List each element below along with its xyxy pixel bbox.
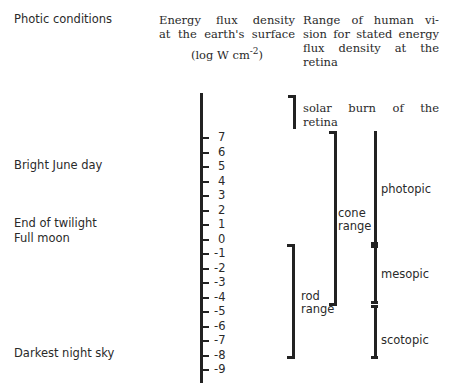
axis-tick-label: 6	[218, 146, 238, 158]
condition-bright-june-day: Bright June day	[14, 159, 102, 172]
mesopic-cap-top	[371, 245, 378, 248]
scotopic-cap-bottom	[371, 356, 378, 359]
mesopic-bracket	[374, 245, 377, 303]
axis-tick-label: -4	[214, 291, 234, 303]
condition-darkest-night-sky: Darkest night sky	[14, 347, 114, 360]
photopic-label: photopic	[381, 183, 431, 196]
axis-tick	[203, 282, 209, 284]
scotopic-bracket	[374, 305, 377, 359]
axis-tick-label: 7	[218, 131, 238, 143]
axis-tick	[203, 195, 209, 197]
axis-tick-label: -7	[214, 334, 234, 346]
scotopic-cap-top	[371, 305, 378, 308]
cone-range-bracket	[334, 131, 337, 306]
axis-tick	[203, 369, 209, 371]
mesopic-label: mesopic	[381, 268, 429, 281]
axis-tick-label: -9	[214, 363, 234, 375]
axis-tick-label: -1	[214, 247, 234, 259]
header-energy-line2: at the earth's surface	[159, 27, 295, 41]
rod-range-bracket	[292, 244, 295, 359]
axis-tick-label: 1	[218, 218, 238, 230]
axis-tick-label: -8	[214, 349, 234, 361]
axis-tick-label: 4	[218, 175, 238, 187]
axis-tick-label: 3	[218, 189, 238, 201]
header-range-line1: Range of human vi-	[303, 13, 439, 27]
axis-tick-label: -6	[214, 320, 234, 332]
header-range-line4: retina	[303, 55, 439, 69]
solar-burn-bracket	[293, 95, 296, 129]
solar-burn-bracket-cap	[288, 95, 296, 98]
cone-range-cap-top	[329, 131, 337, 134]
axis-tick	[203, 181, 209, 183]
axis-tick	[203, 326, 209, 328]
header-energy-line1: Energy flux density	[159, 13, 295, 27]
header-photic-conditions: Photic conditions	[14, 13, 112, 26]
axis-tick	[203, 340, 209, 342]
axis-tick	[203, 224, 209, 226]
axis-tick	[203, 268, 209, 270]
scotopic-label: scotopic	[381, 334, 429, 347]
condition-end-of-twilight: End of twilight	[14, 217, 97, 230]
rod-range-label: rod range	[301, 290, 334, 316]
axis-tick	[203, 253, 209, 255]
rod-range-cap-bottom	[287, 356, 295, 359]
header-energy-unit: (log W cm-2)	[159, 44, 295, 62]
axis-tick	[203, 137, 209, 139]
axis-tick	[203, 210, 209, 212]
axis-tick	[203, 166, 209, 168]
photopic-bracket	[374, 131, 377, 244]
header-vision-range: Range of human vi- sion for stated energ…	[303, 13, 439, 69]
axis-tick	[203, 311, 209, 313]
header-range-line3: flux density at the	[303, 41, 439, 55]
condition-full-moon: Full moon	[14, 232, 70, 245]
axis-tick-label: -2	[214, 262, 234, 274]
axis-tick-label: 5	[218, 160, 238, 172]
axis-tick	[203, 355, 209, 357]
cone-range-label: cone range	[338, 207, 371, 233]
axis-tick-label: -3	[214, 276, 234, 288]
header-range-line2: sion for stated energy	[303, 27, 439, 41]
header-energy-flux: Energy flux density at the earth's surfa…	[159, 13, 295, 62]
axis-tick	[203, 297, 209, 299]
axis-tick-label: 0	[218, 233, 238, 245]
axis-tick-label: -5	[214, 305, 234, 317]
axis-tick	[203, 239, 209, 241]
axis-tick-label: 2	[218, 204, 238, 216]
solar-burn-label: solar burn of the retina	[303, 101, 439, 129]
rod-range-cap-top	[287, 244, 295, 247]
axis-tick	[203, 152, 209, 154]
mesopic-cap-bottom	[371, 301, 378, 304]
